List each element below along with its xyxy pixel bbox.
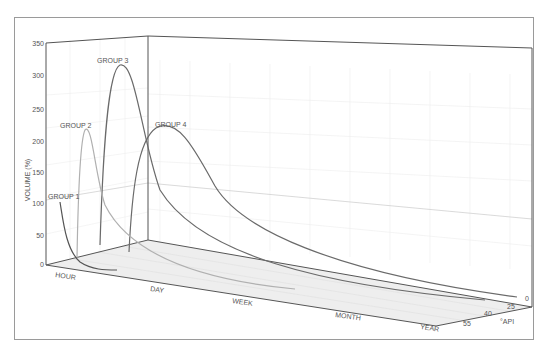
left-wall-grid xyxy=(46,37,148,262)
svg-text:0: 0 xyxy=(525,295,529,302)
label-group-4: GROUP 4 xyxy=(155,121,186,128)
z-axis-label: °API xyxy=(500,318,514,325)
svg-text:250: 250 xyxy=(32,106,44,113)
label-group-2: GROUP 2 xyxy=(60,122,91,129)
back-wall-grid xyxy=(148,60,532,269)
svg-text:40: 40 xyxy=(484,310,492,317)
svg-text:300: 300 xyxy=(32,72,44,79)
floor-plane xyxy=(46,240,532,326)
y-axis-ticks: 0 50 100 150 200 250 300 350 xyxy=(32,40,44,268)
svg-text:HOUR: HOUR xyxy=(55,271,76,281)
label-group-1: GROUP 1 xyxy=(48,193,79,200)
svg-text:25: 25 xyxy=(507,303,515,310)
svg-text:50: 50 xyxy=(36,232,44,239)
label-group-3: GROUP 3 xyxy=(97,57,128,64)
svg-text:DAY: DAY xyxy=(150,285,165,294)
svg-text:55: 55 xyxy=(463,320,471,327)
svg-text:350: 350 xyxy=(32,40,44,47)
svg-text:WEEK: WEEK xyxy=(232,297,254,307)
svg-text:200: 200 xyxy=(32,138,44,145)
reference-line-100 xyxy=(46,183,532,219)
svg-text:0: 0 xyxy=(40,261,44,268)
svg-text:150: 150 xyxy=(32,169,44,176)
svg-text:YEAR: YEAR xyxy=(420,323,440,333)
chart-3d: GROUP 1 GROUP 2 GROUP 3 GROUP 4 0 50 100… xyxy=(0,0,552,357)
y-axis-label: VOLUME (%) xyxy=(24,159,32,201)
svg-text:100: 100 xyxy=(32,200,44,207)
